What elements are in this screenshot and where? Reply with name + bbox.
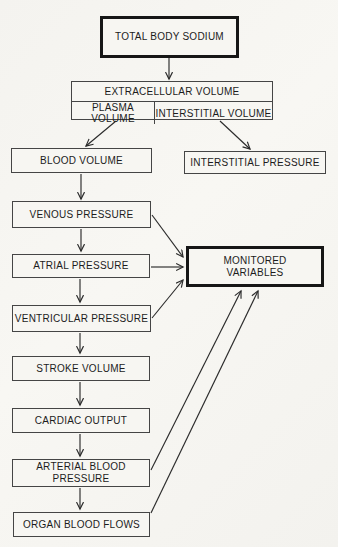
arrow-venous-pressure-to-monitored-variables: [152, 215, 183, 257]
flowchart-canvas: TOTAL BODY SODIUM EXTRACELLULAR VOLUME P…: [0, 0, 338, 547]
arrow-ventricular-pressure-to-monitored-variables: [152, 280, 183, 318]
arrow-interstitial-volume-to-interstitial-pressure: [220, 121, 250, 149]
connector-arrows-layer: [0, 0, 338, 547]
arrow-plasma-volume-to-blood-volume: [86, 121, 116, 146]
arrow-organ-blood-flows-to-monitored-variables: [151, 291, 258, 513]
arrow-arterial-blood-pressure-to-monitored-variables: [151, 291, 241, 470]
